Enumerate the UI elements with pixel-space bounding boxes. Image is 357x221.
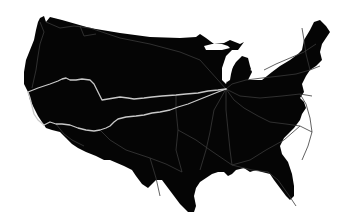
us-rail-map <box>0 0 357 221</box>
map-canvas <box>0 0 357 221</box>
us-landmass <box>24 16 330 212</box>
